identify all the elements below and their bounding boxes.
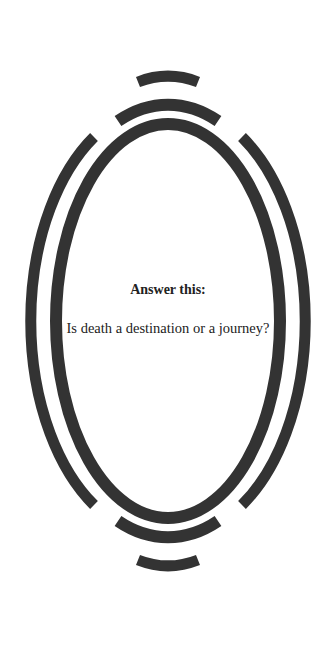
oval-frame-card: Answer this: Is death a destination or a… (0, 0, 336, 655)
question-text: Is death a destination or a journey? (0, 320, 336, 337)
bottom-outer-arc (138, 560, 198, 566)
top-outer-arc (138, 76, 198, 82)
prompt-heading: Answer this: (0, 282, 336, 298)
